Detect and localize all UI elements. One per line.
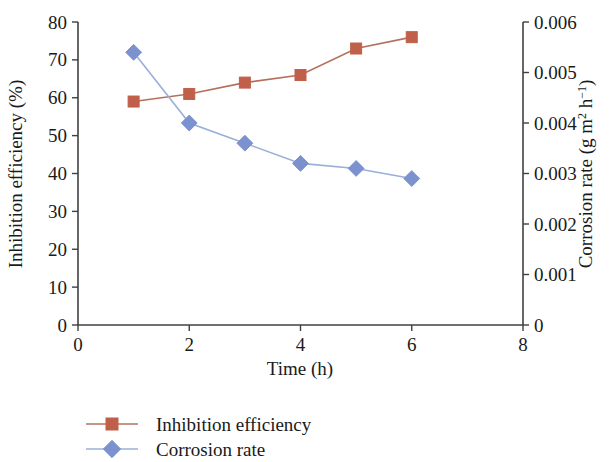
chart-figure: 01020304050607080 00.0010.0020.0030.0040…: [0, 0, 611, 462]
x-tick-label: 0: [73, 334, 83, 355]
right-tick-label: 0.001: [534, 264, 577, 285]
chart-legend: Inhibition efficiencyCorrosion rate: [86, 414, 312, 460]
data-point-square: [406, 32, 417, 43]
x-axis-tick-labels: 02468: [73, 334, 528, 355]
x-axis-ticks: [78, 325, 523, 331]
right-tick-label: 0.003: [534, 163, 577, 184]
left-axis-title: Inhibition efficiency (%): [5, 80, 27, 269]
right-axis-title-tail: ): [575, 80, 597, 86]
data-point-square: [106, 418, 118, 430]
right-tick-label: 0.006: [534, 12, 577, 33]
data-point-diamond: [181, 115, 197, 131]
right-axis-title: Corrosion rate (g m2 h−1): [575, 80, 597, 269]
left-tick-label: 70: [48, 49, 67, 70]
x-tick-label: 4: [296, 334, 306, 355]
legend-item-corrosion-rate: Corrosion rate: [86, 439, 265, 460]
right-tick-label: 0.005: [534, 62, 577, 83]
series-inhibition-efficiency: [128, 32, 417, 107]
series-corrosion-rate: [126, 44, 420, 186]
data-series-layer: [126, 32, 420, 187]
legend-label: Corrosion rate: [156, 439, 265, 460]
x-tick-label: 6: [407, 334, 417, 355]
data-point-square: [128, 96, 139, 107]
right-tick-label: 0.002: [534, 214, 577, 235]
left-tick-label: 10: [48, 277, 67, 298]
x-tick-label: 8: [518, 334, 528, 355]
right-axis-title-sup-minus1: −1: [575, 86, 589, 99]
right-axis-title-main: Corrosion rate (g m: [575, 119, 597, 269]
data-point-square: [184, 88, 195, 99]
data-point-diamond: [237, 135, 253, 151]
data-point-diamond: [348, 161, 364, 177]
legend-item-inhibition-efficiency: Inhibition efficiency: [86, 414, 312, 435]
right-tick-label: 0: [534, 315, 544, 336]
left-tick-label: 0: [58, 315, 68, 336]
series-line: [134, 52, 412, 178]
x-axis-title: Time (h): [267, 358, 333, 380]
left-tick-label: 50: [48, 125, 67, 146]
series-line: [134, 37, 412, 101]
data-point-diamond: [103, 440, 120, 457]
right-axis-tick-labels: 00.0010.0020.0030.0040.0050.006: [534, 12, 577, 336]
data-point-diamond: [404, 171, 420, 187]
data-point-square: [239, 77, 250, 88]
left-axis-ticks: [72, 22, 78, 325]
data-point-diamond: [293, 155, 309, 171]
data-point-square: [295, 70, 306, 81]
right-axis-ticks: [523, 22, 529, 325]
data-point-diamond: [126, 44, 142, 60]
left-tick-label: 80: [48, 12, 67, 33]
legend-label: Inhibition efficiency: [156, 414, 312, 435]
right-axis-title-mid: h: [575, 98, 596, 113]
left-tick-label: 20: [48, 239, 67, 260]
right-tick-label: 0.004: [534, 113, 577, 134]
chart-svg: 01020304050607080 00.0010.0020.0030.0040…: [0, 0, 611, 462]
left-tick-label: 40: [48, 163, 67, 184]
left-axis-tick-labels: 01020304050607080: [48, 12, 67, 336]
data-point-square: [351, 43, 362, 54]
x-tick-label: 2: [185, 334, 195, 355]
left-tick-label: 60: [48, 87, 67, 108]
left-tick-label: 30: [48, 201, 67, 222]
